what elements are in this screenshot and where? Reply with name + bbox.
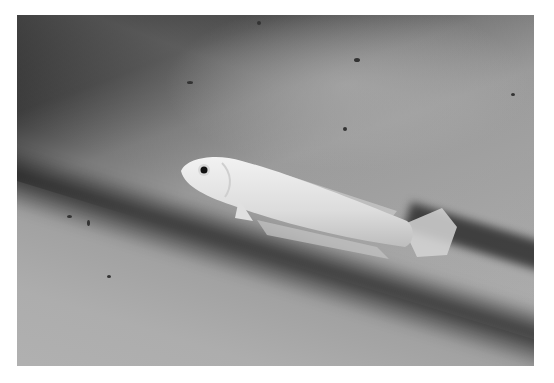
photo [17,15,534,366]
fish [17,15,534,366]
